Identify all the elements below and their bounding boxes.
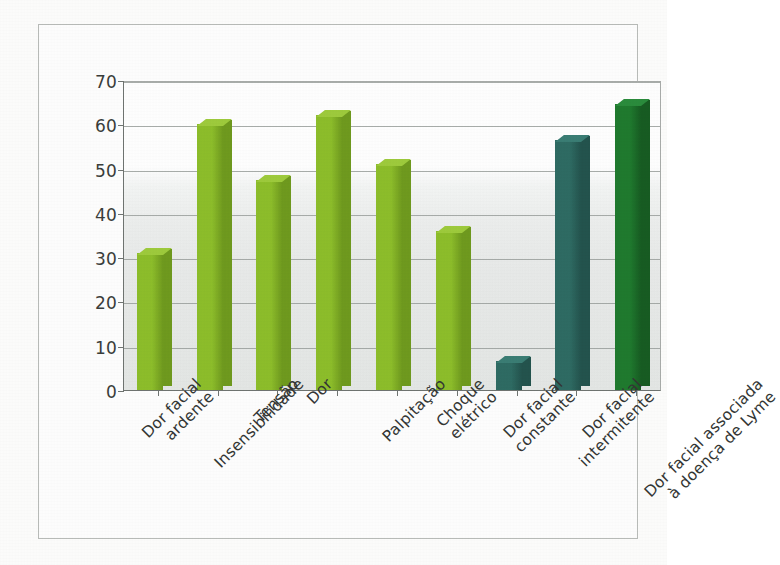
bar [436,231,462,390]
bar-front-face [615,104,641,390]
bar-front-face [496,361,522,390]
bar [256,180,282,390]
bar-front-face [197,124,223,390]
y-axis-tick-label: 40 [95,205,117,225]
x-axis-tick-mark [636,390,637,396]
bar-side-face [282,176,291,386]
bar [197,124,223,390]
x-axis-tick-mark [337,390,338,396]
bar-front-face [376,164,402,390]
x-axis-tick-mark [158,390,159,396]
x-axis-tick-mark [277,390,278,396]
bar [496,361,522,390]
x-axis-category-label: Dor facial associada à doença de Lyme [641,375,780,514]
y-axis-tick-mark [118,258,124,259]
y-axis-tick-mark [118,81,124,82]
figure-frame: 010203040506070 [38,24,638,539]
y-axis-tick-mark [118,214,124,215]
y-axis-tick-mark [118,125,124,126]
bar [555,140,581,390]
bar-side-face [581,136,590,386]
x-axis-tick-mark [397,390,398,396]
bar [137,253,163,390]
y-axis-tick-label: 20 [95,293,117,313]
x-axis-tick-mark [576,390,577,396]
y-axis-tick-label: 60 [95,116,117,136]
y-axis-tick-label: 50 [95,161,117,181]
gridline [124,82,660,83]
bar-side-face [402,160,411,386]
y-axis-tick-mark [118,347,124,348]
bar-side-face [342,111,351,386]
bar-side-face [462,227,471,386]
y-axis-tick-label: 70 [95,72,117,92]
bar-front-face [137,253,163,390]
y-axis-tick-mark [118,391,124,392]
y-axis-tick-mark [118,170,124,171]
y-axis-tick-label: 0 [106,382,117,402]
y-axis-tick-label: 10 [95,338,117,358]
x-axis-tick-mark [457,390,458,396]
bar-side-face [641,100,650,386]
bar-front-face [256,180,282,390]
bar-side-face [223,120,232,386]
bar [376,164,402,390]
y-axis-tick-label: 30 [95,249,117,269]
x-axis-tick-mark [218,390,219,396]
bar-front-face [316,115,342,390]
bar-front-face [436,231,462,390]
x-axis-tick-mark [517,390,518,396]
bar-side-face [163,249,172,386]
bar-front-face [555,140,581,390]
y-axis-tick-mark [118,302,124,303]
chart-plot-area: 010203040506070 [123,81,661,391]
bar [316,115,342,390]
bar [615,104,641,390]
